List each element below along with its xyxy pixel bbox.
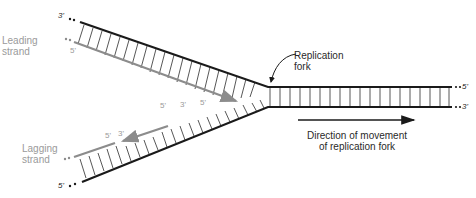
end-label-top-3prime: 3' [58,12,64,20]
fork-pointer-arrow [271,54,296,82]
top-parental-strand [80,22,452,87]
end-label-leading-tip-5prime: 5' [160,102,166,110]
end-label-duplex-5prime: 5' [462,83,468,91]
leading-strand-label-line1: Leading [2,35,38,46]
lagging-strand-label-line1: Lagging [22,143,58,154]
direction-label: Direction of movement of replication for… [298,130,416,152]
end-label-mid-3prime: 3' [180,101,186,109]
leading-strand-label-line2: strand [2,46,38,57]
end-label-frag1-5prime: 5' [105,132,111,140]
upper-arm-base-pairs [78,25,255,98]
leading-strand-label: Leading strand [2,35,38,57]
leading-strand-new [74,42,236,101]
direction-label-line1: Direction of movement [298,130,416,141]
lagging-strand-label-line2: strand [22,154,58,165]
end-label-frag2-5prime: 5' [200,99,206,107]
replication-fork-diagram [0,0,476,198]
duplex-base-pairs [270,88,449,107]
end-label-frag1-3prime: 3' [118,130,124,138]
replication-fork-label-line1: Replication [294,50,343,61]
okazaki-fragment-2 [123,126,168,141]
parental-strands [80,22,452,182]
replication-fork-label-line2: fork [294,61,343,72]
end-label-leading-5prime: 5' [70,47,76,55]
direction-label-line2: of replication fork [298,141,416,152]
replication-fork-label: Replication fork [294,50,343,72]
end-label-bottom-5prime: 5' [58,182,64,190]
lagging-strand-label: Lagging strand [22,143,58,165]
end-label-duplex-3prime: 3' [462,103,468,111]
